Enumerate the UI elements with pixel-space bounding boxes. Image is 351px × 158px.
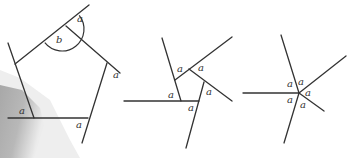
angle-label: a	[305, 87, 311, 98]
angle-label: a	[287, 94, 293, 105]
angle-label: a	[19, 105, 25, 116]
angle-label: a	[198, 62, 204, 73]
figure-small-pentagon: aaaaa	[124, 37, 232, 148]
line-segment	[66, 26, 120, 73]
angle-label: a	[188, 102, 194, 113]
angle-label: a	[206, 86, 212, 97]
angle-label: a	[287, 78, 293, 89]
angle-label: a	[300, 99, 306, 110]
line-segment	[175, 37, 232, 80]
angle-label: a	[113, 69, 119, 80]
line-segment	[186, 82, 204, 148]
angles-diagram: abaaa aaaaa aaaaa	[0, 0, 351, 158]
angle-label: a	[77, 13, 83, 24]
angle-label: a	[168, 89, 174, 100]
background-shading	[0, 70, 80, 158]
angle-label: a	[298, 76, 304, 87]
figure-five-lines: aaaaa	[243, 35, 346, 143]
angle-label: a	[76, 119, 82, 130]
angle-label: a	[177, 63, 183, 74]
angle-label: b	[56, 34, 62, 45]
line-segment	[82, 63, 107, 143]
